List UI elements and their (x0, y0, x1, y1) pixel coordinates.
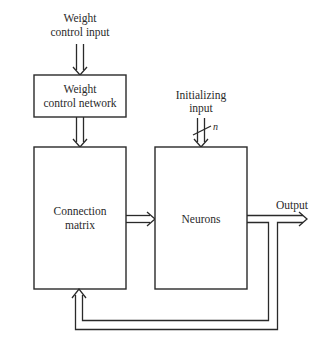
bus-width-label: n (213, 121, 218, 132)
arrow-network-to-matrix (73, 117, 87, 147)
initializing-input-label-line1: Initializing (176, 89, 227, 102)
neurons-label: Neurons (182, 213, 221, 225)
arrow-weight-input-to-network (73, 44, 87, 75)
connection-matrix-label-line2: matrix (65, 219, 95, 231)
arrow-initializing-input-to-neurons (193, 118, 211, 147)
weight-control-network-block (34, 75, 126, 117)
block-diagram: Weight control input Weight control netw… (0, 0, 320, 339)
connection-matrix-label-line1: Connection (53, 205, 106, 217)
weight-control-input-label-line1: Weight (64, 12, 98, 25)
weight-control-network-label-line1: Weight (64, 83, 98, 96)
weight-control-input-label-line2: control input (50, 26, 110, 39)
weight-control-network-label-line2: control network (43, 97, 116, 109)
bus-slash-icon (193, 126, 211, 135)
initializing-input-label-line2: input (189, 102, 213, 115)
feedback-arrow-to-matrix (72, 289, 86, 298)
arrow-matrix-to-neurons (126, 212, 155, 226)
output-label: Output (276, 199, 309, 212)
connection-matrix-block (34, 147, 126, 289)
